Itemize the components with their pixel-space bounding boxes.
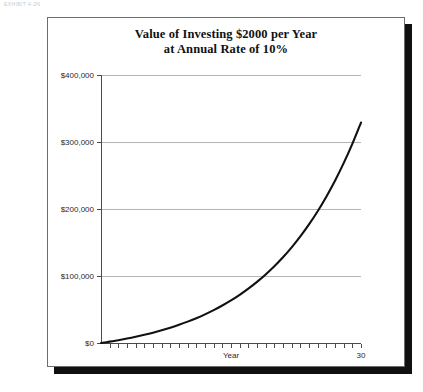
x-axis-tick [110, 344, 111, 348]
x-axis-tick [136, 344, 137, 348]
y-axis-tick-label: $400,000 [61, 71, 94, 80]
x-axis-tick [205, 344, 206, 348]
chart-title: Value of Investing $2000 per Year at Ann… [48, 27, 404, 56]
plot-area: $0$100,000$200,000$300,000$400,000 Year … [101, 75, 361, 343]
x-axis-tick [344, 344, 345, 348]
x-axis-tick [153, 344, 154, 348]
x-axis-tick [361, 344, 362, 348]
page-header-caption: EXHIBIT 4-2N [4, 1, 40, 7]
x-axis-tick [326, 344, 327, 348]
data-series-curve [101, 75, 361, 343]
x-axis-tick [335, 344, 336, 348]
x-axis-end-label: 30 [357, 351, 366, 360]
x-axis-tick [240, 344, 241, 348]
x-axis-tick [274, 344, 275, 348]
x-axis-tick [222, 344, 223, 348]
y-axis-tick-label: $200,000 [61, 205, 94, 214]
x-axis-title: Year [101, 351, 361, 360]
chart-title-line-2: at Annual Rate of 10% [48, 42, 404, 57]
x-axis-tick [231, 344, 232, 348]
x-axis-tick [248, 344, 249, 348]
y-axis-tick-label: $300,000 [61, 138, 94, 147]
x-axis-line [101, 343, 361, 344]
x-axis-tick [188, 344, 189, 348]
x-axis-tick [196, 344, 197, 348]
chart-figure-frame: Value of Investing $2000 per Year at Ann… [47, 17, 405, 367]
x-axis-tick [352, 344, 353, 348]
x-axis-tick [309, 344, 310, 348]
x-axis-tick [170, 344, 171, 348]
x-axis-tick [118, 344, 119, 348]
x-axis-tick [283, 344, 284, 348]
x-axis-tick [127, 344, 128, 348]
x-axis-tick [318, 344, 319, 348]
x-axis-tick [179, 344, 180, 348]
x-axis-tick [266, 344, 267, 348]
y-axis-tick-label: $0 [85, 339, 94, 348]
x-axis-tick [257, 344, 258, 348]
y-axis-tick-label: $100,000 [61, 272, 94, 281]
chart-title-line-1: Value of Investing $2000 per Year [48, 27, 404, 42]
x-axis-tick [214, 344, 215, 348]
x-axis-tick [292, 344, 293, 348]
x-axis-tick [144, 344, 145, 348]
x-axis-tick [300, 344, 301, 348]
x-axis-tick [162, 344, 163, 348]
